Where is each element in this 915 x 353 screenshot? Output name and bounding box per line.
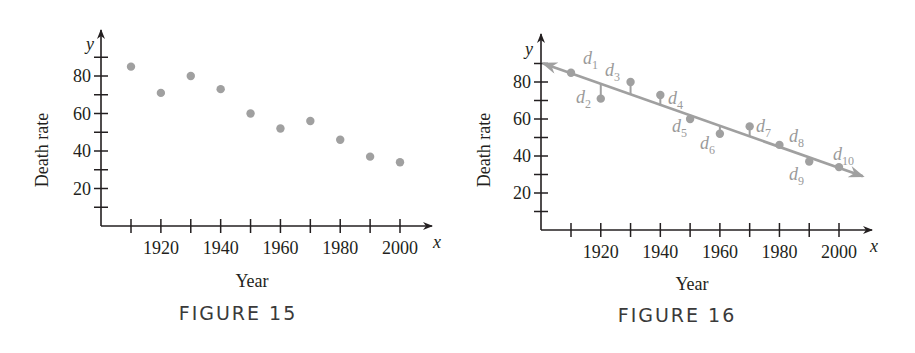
x-tick-label: 2000 <box>382 238 418 258</box>
data-point <box>366 152 374 160</box>
figure-caption: FIGURE 15 <box>179 302 298 324</box>
residual-label: d8 <box>789 126 804 150</box>
x-tick-label: 1960 <box>262 238 298 258</box>
figure-caption: FIGURE 16 <box>618 304 737 326</box>
y-tick-label: 80 <box>73 66 91 86</box>
y-tick-label: 60 <box>73 104 91 124</box>
y-axis-title: Death rate <box>32 113 52 187</box>
figure-15: 2040608019201940196019802000xyYearDeath … <box>32 30 441 324</box>
residual-label: d6 <box>700 133 715 157</box>
data-point <box>306 117 314 125</box>
residual-label: d5 <box>672 116 687 140</box>
residual-label: d2 <box>576 87 591 111</box>
residual-label: d1 <box>583 48 598 72</box>
y-variable-label: y <box>523 39 533 59</box>
figures-canvas: 2040608019201940196019802000xyYearDeath … <box>0 0 915 353</box>
x-tick-label: 1940 <box>203 238 239 258</box>
data-point <box>745 122 753 130</box>
y-tick-label: 80 <box>513 72 531 92</box>
residual-label: d7 <box>756 116 771 140</box>
x-tick-label: 1940 <box>642 242 678 262</box>
data-point <box>216 85 224 93</box>
data-point <box>157 89 165 97</box>
data-point <box>805 157 813 165</box>
residual-label: d3 <box>605 60 620 84</box>
data-point <box>626 78 634 86</box>
data-point <box>187 72 195 80</box>
data-point <box>336 136 344 144</box>
data-point <box>775 141 783 149</box>
data-point <box>246 109 254 117</box>
x-tick-label: 1920 <box>143 238 179 258</box>
y-tick-label: 20 <box>513 183 531 203</box>
y-tick-label: 40 <box>73 141 91 161</box>
x-tick-label: 2000 <box>821 242 857 262</box>
x-tick-label: 1920 <box>583 242 619 262</box>
data-point <box>597 94 605 102</box>
x-variable-label: x <box>432 232 441 252</box>
x-tick-label: 1960 <box>702 242 738 262</box>
data-point <box>567 69 575 77</box>
data-point <box>396 158 404 166</box>
data-point <box>716 130 724 138</box>
y-variable-label: y <box>84 34 94 54</box>
x-axis-title: Year <box>675 274 708 294</box>
data-point <box>127 62 135 70</box>
residual-label: d9 <box>789 164 804 188</box>
regression-line <box>543 64 863 177</box>
y-tick-label: 40 <box>513 146 531 166</box>
x-tick-label: 1980 <box>322 238 358 258</box>
y-axis-title: Death rate <box>474 113 494 187</box>
x-variable-label: x <box>869 236 878 256</box>
y-tick-label: 20 <box>73 179 91 199</box>
data-point <box>656 91 664 99</box>
data-point <box>276 124 284 132</box>
x-tick-label: 1980 <box>761 242 797 262</box>
figure-16: 2040608019201940196019802000xyYearDeath … <box>474 34 878 326</box>
data-point <box>686 115 694 123</box>
x-axis-title: Year <box>235 271 268 291</box>
y-tick-label: 60 <box>513 109 531 129</box>
